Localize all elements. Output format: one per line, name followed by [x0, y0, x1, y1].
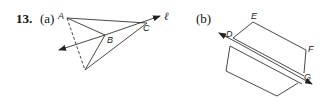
line-l-label: ℓ [164, 10, 169, 22]
upper-parallelogram [233, 22, 306, 73]
figure: 13. (a) (b) A B C ℓ [0, 0, 321, 98]
point-a-label: A [57, 11, 64, 21]
diagram-canvas: A B C ℓ D E F G [0, 0, 321, 98]
point-d-label: D [226, 29, 233, 39]
segment-ac [67, 18, 147, 23]
point-b-label: B [107, 35, 113, 45]
point-g-label: G [304, 72, 311, 82]
point-c-label: C [143, 23, 150, 33]
part-b-diagram [219, 22, 312, 96]
point-f-label: F [308, 44, 314, 54]
point-e-label: E [251, 11, 258, 21]
line-l-forward [105, 16, 160, 35]
double-line-upper [240, 44, 312, 84]
segment-ab [67, 18, 105, 35]
